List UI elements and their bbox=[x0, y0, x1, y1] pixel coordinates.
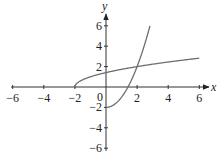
function-graph: −6−4−2246−6−4−2246 x y 0 bbox=[0, 0, 217, 153]
x-tick-label: −2 bbox=[69, 91, 82, 105]
x-axis-label: x bbox=[210, 80, 217, 94]
parabola-curve bbox=[106, 26, 150, 108]
y-tick-label: −4 bbox=[89, 121, 102, 135]
y-tick-label: 6 bbox=[96, 19, 102, 33]
origin-label: 0 bbox=[97, 90, 103, 104]
y-tick-label: 2 bbox=[96, 60, 102, 74]
axes bbox=[11, 14, 209, 151]
y-axis-label: y bbox=[101, 0, 108, 13]
x-tick-label: 2 bbox=[134, 91, 140, 105]
x-tick-label: −6 bbox=[6, 91, 19, 105]
x-tick-label: −4 bbox=[37, 91, 50, 105]
y-tick-label: −6 bbox=[89, 141, 102, 153]
y-tick-label: 4 bbox=[96, 39, 102, 53]
x-tick-label: 6 bbox=[196, 91, 202, 105]
ticks: −6−4−2246−6−4−2246 bbox=[6, 19, 202, 153]
x-tick-label: 4 bbox=[165, 91, 171, 105]
sqrt-curve bbox=[75, 58, 199, 87]
